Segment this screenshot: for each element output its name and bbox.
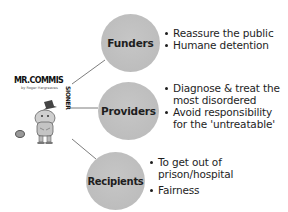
node-providers: Providers [98,82,159,140]
bullet-item: Fairness [149,184,233,196]
node-funders: Funders [101,14,160,72]
node-recipients: Recipients [86,152,145,210]
bullet-continuation-text: prison/hospital [158,168,233,180]
bullet-continuation-text: for the 'untreatable' [173,118,275,130]
bullet-item: Reassure the public [164,27,274,39]
node-label-providers: Providers [101,105,156,117]
mr-commissioner-figure-icon [30,98,60,144]
bullet-item: Avoid responsibility [164,106,280,118]
logo-title-vertical: SIONER [61,86,71,110]
bullet-continuation: most disordered [164,94,280,106]
connector-funders [72,60,105,84]
bullet-item: Diagnose & treat the [164,82,280,94]
node-label-recipients: Recipients [87,176,143,187]
node-label-funders: Funders [107,37,153,49]
bullets-recipients: To get out of prison/hospital Fairness [149,156,233,196]
logo-subtitle: by Roger Hargreaves [21,86,58,90]
bullets-providers: Diagnose & treat the most disordered Avo… [164,82,280,130]
bullet-continuation-text: most disordered [173,94,256,106]
diagram-canvas: MR.COMMIS SIONER by Roger Hargreaves Fun… [0,0,288,212]
bullet-item: Humane detention [164,39,274,51]
bullets-funders: Reassure the public Humane detention [164,27,274,51]
bullet-item: To get out of [149,156,233,168]
logo-title: MR.COMMIS [14,76,63,85]
logo-badge-icon [15,130,25,138]
bullet-continuation: prison/hospital [149,168,233,180]
bullet-continuation: for the 'untreatable' [164,118,280,130]
mr-commissioner-logo: MR.COMMIS SIONER by Roger Hargreaves [14,72,76,156]
